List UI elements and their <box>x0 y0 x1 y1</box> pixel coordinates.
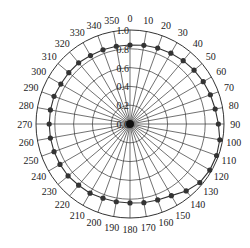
data-point-marker <box>87 191 92 196</box>
angular-tick-label: 260 <box>19 137 34 148</box>
data-point-marker <box>88 53 93 58</box>
angular-tick-label: 310 <box>42 51 57 62</box>
angular-tick-label: 140 <box>190 199 205 210</box>
radial-tick-label: 1.0 <box>117 25 130 36</box>
data-point-marker <box>100 196 105 201</box>
data-point-marker <box>48 135 53 140</box>
data-point-marker <box>127 200 132 205</box>
angular-tick-label: 70 <box>224 82 234 93</box>
angular-tick-label: 10 <box>143 15 153 26</box>
angular-tick-label: 290 <box>24 82 39 93</box>
data-point-marker <box>216 121 221 126</box>
angular-tick-label: 240 <box>31 171 46 182</box>
data-point-marker <box>48 107 53 112</box>
angular-tick-label: 100 <box>226 137 241 148</box>
data-point-marker <box>208 92 213 97</box>
angular-tick-label: 120 <box>214 171 229 182</box>
data-point-marker <box>114 199 119 204</box>
data-point-marker <box>114 44 119 49</box>
angular-tick-label: 220 <box>55 199 70 210</box>
angular-tick-label: 170 <box>141 222 156 233</box>
data-point-marker <box>58 81 63 86</box>
angular-tick-label: 160 <box>159 217 174 228</box>
angular-tick-label: 210 <box>70 210 85 221</box>
data-point-marker <box>47 121 52 126</box>
data-point-marker <box>51 94 56 99</box>
data-point-marker <box>217 137 222 142</box>
angular-tick-label: 320 <box>55 38 70 49</box>
data-point-marker <box>76 183 81 188</box>
data-point-marker <box>65 173 70 178</box>
angular-tick-label: 180 <box>123 224 138 235</box>
data-point-marker <box>191 68 196 73</box>
angular-tick-label: 300 <box>31 66 46 77</box>
data-point-marker <box>155 197 160 202</box>
angular-tick-label: 350 <box>104 15 119 26</box>
data-point-marker <box>76 60 81 65</box>
data-point-marker <box>213 106 218 111</box>
data-point-marker <box>201 79 206 84</box>
data-point-marker <box>66 70 71 75</box>
angular-tick-label: 90 <box>230 119 240 130</box>
data-point-marker <box>100 47 105 52</box>
polar-chart: 0.00.20.40.60.81.0 010203040506070809010… <box>0 0 250 248</box>
data-point-marker <box>197 180 202 185</box>
angular-tick-label: 330 <box>70 27 85 38</box>
angular-tick-label: 190 <box>104 222 119 233</box>
radial-tick-label: 0.4 <box>117 81 130 92</box>
angular-tick-label: 50 <box>206 51 216 62</box>
angular-tick-label: 0 <box>128 13 133 24</box>
center-hub <box>126 120 134 128</box>
data-point-marker <box>169 193 174 198</box>
angular-tick-label: 40 <box>193 38 203 49</box>
angular-tick-label: 130 <box>203 186 218 197</box>
data-point-marker <box>141 200 146 205</box>
angular-tick-label: 280 <box>19 100 34 111</box>
data-point-marker <box>51 149 56 154</box>
angular-tick-label: 110 <box>222 155 237 166</box>
data-point-marker <box>141 43 146 48</box>
data-point-marker <box>168 51 173 56</box>
angular-tick-label: 340 <box>86 20 101 31</box>
angular-tick-label: 80 <box>229 100 239 111</box>
radial-tick-label: 0.2 <box>117 100 130 111</box>
data-point-marker <box>184 188 189 193</box>
data-point-marker <box>155 45 160 50</box>
angular-tick-label: 250 <box>24 155 39 166</box>
angular-tick-label: 60 <box>216 66 226 77</box>
data-point-marker <box>214 153 219 158</box>
angular-tick-label: 150 <box>175 210 190 221</box>
angular-tick-label: 200 <box>86 217 101 228</box>
angular-tick-label: 230 <box>42 186 57 197</box>
data-point-marker <box>127 42 132 47</box>
data-point-marker <box>207 167 212 172</box>
angular-tick-label: 30 <box>178 27 188 38</box>
data-point-marker <box>57 162 62 167</box>
angular-tick-label: 270 <box>17 119 32 130</box>
data-point-marker <box>181 58 186 63</box>
radial-tick-label: 0.6 <box>117 63 130 74</box>
angular-tick-label: 20 <box>161 20 171 31</box>
